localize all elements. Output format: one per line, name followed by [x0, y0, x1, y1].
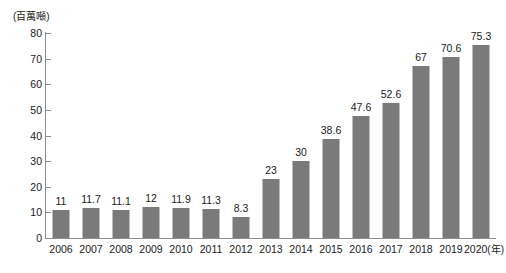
bar-value-label: 12	[145, 193, 157, 204]
bar	[203, 209, 220, 238]
bar-group: 47.6	[346, 33, 376, 238]
bar	[83, 208, 100, 238]
y-axis-tick-label: 40	[14, 131, 42, 141]
bar	[263, 179, 280, 238]
x-axis-tick-label: 2013	[256, 243, 286, 255]
bar-group: 75.3	[466, 33, 496, 238]
x-axis-tick-label: 2012	[226, 243, 256, 255]
bar-group: 30	[286, 33, 316, 238]
x-axis-tick-label: 2018	[406, 243, 436, 255]
bar-group: 11.1	[106, 33, 136, 238]
bar	[53, 210, 70, 238]
bar-value-label: 11.9	[171, 194, 191, 205]
x-axis-tick-label: 2014	[286, 243, 316, 255]
bar	[143, 207, 160, 238]
plot-area: 1111.711.11211.911.38.3233038.647.652.66…	[46, 33, 496, 238]
bar-group: 11.9	[166, 33, 196, 238]
x-axis-tick-label: 2019	[436, 243, 466, 255]
y-axis-tick-label: 30	[14, 156, 42, 166]
bar	[113, 210, 130, 238]
y-axis-tick-label: 60	[14, 79, 42, 89]
x-axis-tick-label: 2010	[166, 243, 196, 255]
bar-value-label: 11.1	[111, 196, 131, 207]
bar-group: 52.6	[376, 33, 406, 238]
bar-group: 67	[406, 33, 436, 238]
bar	[173, 208, 190, 238]
bar-value-label: 11	[56, 196, 67, 207]
bar-group: 11.7	[76, 33, 106, 238]
bar-value-label: 70.6	[441, 43, 461, 54]
x-axis-line	[45, 238, 496, 239]
y-axis-tick-label: 80	[14, 28, 42, 38]
bar	[353, 116, 370, 238]
bar-value-label: 52.6	[381, 89, 401, 100]
x-axis-tick-label: 2009	[136, 243, 166, 255]
bar-value-label: 75.3	[471, 31, 491, 42]
bar	[233, 217, 250, 238]
bar-group: 23	[256, 33, 286, 238]
bar-chart: (百萬噸) 01020304050607080 1111.711.11211.9…	[0, 0, 506, 273]
bar-group: 70.6	[436, 33, 466, 238]
bar	[383, 103, 400, 238]
x-axis-tick-label: 2011	[196, 243, 226, 255]
y-axis-tick-label: 0	[14, 233, 42, 243]
y-axis-tick-label: 70	[14, 54, 42, 64]
x-axis-tick-label: 2015	[316, 243, 346, 255]
bar-group: 11.3	[196, 33, 226, 238]
y-axis-tick-label: 20	[14, 182, 42, 192]
bar-value-label: 23	[265, 165, 277, 176]
bar-value-label: 47.6	[351, 102, 371, 113]
y-axis-tick	[46, 238, 51, 239]
bar	[443, 57, 460, 238]
bar	[473, 45, 490, 238]
x-axis-tick-label: 2016	[346, 243, 376, 255]
bar-group: 12	[136, 33, 166, 238]
x-axis-tick-label: 2017	[376, 243, 406, 255]
y-axis-tick-label: 10	[14, 207, 42, 217]
bar-value-label: 11.7	[81, 194, 101, 205]
bar-value-label: 30	[295, 147, 307, 158]
bar-value-label: 38.6	[321, 125, 341, 136]
y-axis-tick-labels: 01020304050607080	[8, 0, 42, 273]
bar	[293, 161, 310, 238]
x-axis-tick-labels: 2006200720082009201020112012201320142015…	[46, 243, 496, 263]
bar-group: 11	[46, 33, 76, 238]
bar-value-label: 67	[415, 52, 427, 63]
bar-value-label: 8.3	[234, 203, 249, 214]
bar-value-label: 11.3	[201, 195, 221, 206]
x-axis-tick-label: 2020(年)	[464, 243, 506, 256]
bar	[323, 139, 340, 238]
x-axis-tick-label: 2006	[46, 243, 76, 255]
bar-group: 38.6	[316, 33, 346, 238]
x-axis-unit-label: (年)	[487, 244, 504, 255]
x-axis-tick-label: 2007	[76, 243, 106, 255]
y-axis-tick-label: 50	[14, 105, 42, 115]
bar	[413, 66, 430, 238]
bar-group: 8.3	[226, 33, 256, 238]
x-axis-tick-label: 2008	[106, 243, 136, 255]
